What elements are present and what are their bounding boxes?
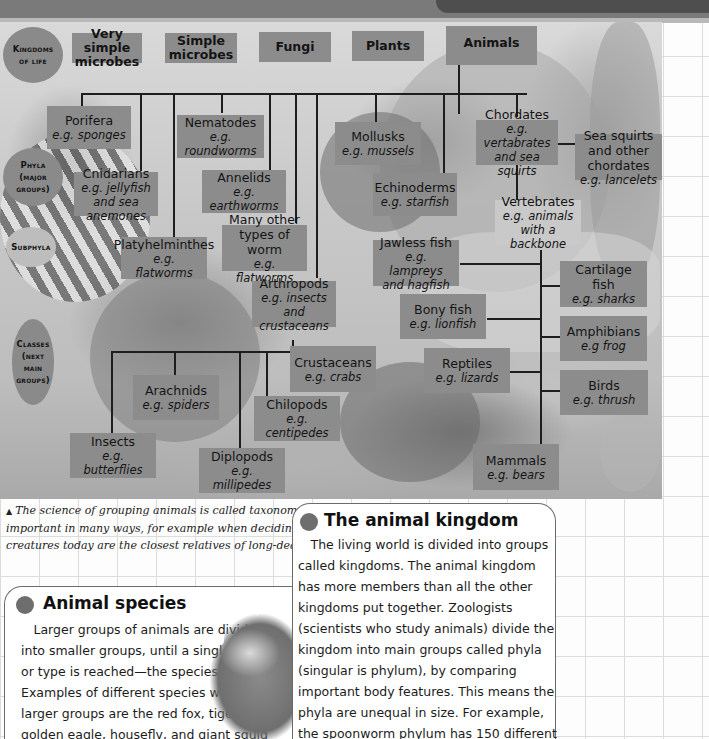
connector	[487, 318, 541, 320]
node-example: e.g. roundworms	[181, 130, 260, 158]
node-name: Chilopods	[266, 397, 327, 412]
header-tab	[436, 0, 709, 13]
node-name: Sea squirts and other chordates	[577, 128, 661, 173]
connector	[460, 263, 541, 265]
node-name: Nematodes	[185, 115, 257, 130]
node-name: Cnidarians	[83, 166, 149, 181]
panel-body: The living world is divided into groups …	[298, 534, 558, 739]
level-label-text: Subphyla	[11, 241, 50, 253]
node-chilopods[interactable]: Chilopodse.g. centipedes	[254, 396, 340, 441]
node-birds[interactable]: Birdse.g. thrush	[560, 370, 648, 415]
node-example: e.g. sharks	[572, 292, 635, 306]
node-bony-fish[interactable]: Bony fishe.g. lionfish	[400, 294, 486, 339]
level-label-phyla: Phyla (major groups)	[3, 148, 63, 206]
kingdom-animals[interactable]: Animals	[446, 26, 537, 65]
node-jawless-fish[interactable]: Jawless fishe.g. lampreys and hagfish	[373, 240, 459, 286]
node-example: e.g. centipedes	[258, 412, 336, 440]
node-crustaceans[interactable]: Crustaceanse.g. crabs	[290, 346, 376, 392]
connector	[81, 93, 527, 95]
stork-illustration	[600, 412, 660, 492]
node-reptiles[interactable]: Reptilese.g. lizards	[424, 348, 510, 393]
level-label-subphyla: Subphyla	[6, 227, 56, 267]
node-example: e.g. earthworms	[206, 185, 282, 213]
bullet-dot-icon	[300, 513, 318, 531]
level-label-text: Phyla (major groups)	[10, 159, 56, 195]
node-example: e.g. jellyfish and sea anemones	[76, 181, 156, 223]
node-name: Mammals	[486, 453, 546, 468]
node-name: Fungi	[276, 40, 315, 54]
node-other-worms[interactable]: Many other types of worme.g. flatworms	[222, 225, 307, 271]
node-sea-squirts[interactable]: Sea squirts and other chordatese.g. lanc…	[575, 134, 662, 180]
node-name: Plants	[366, 39, 410, 53]
connector	[316, 93, 318, 278]
node-name: Annelids	[217, 170, 270, 185]
node-insects[interactable]: Insectse.g. butterflies	[70, 433, 156, 478]
connector	[540, 285, 560, 287]
node-mammals[interactable]: Mammalse.g. bears	[473, 444, 559, 490]
node-name: Simple microbes	[169, 34, 233, 62]
node-example: e.g. lancelets	[580, 173, 657, 187]
node-cnidarians[interactable]: Cnidarianse.g. jellyfish and sea anemone…	[74, 172, 158, 216]
node-arachnids[interactable]: Arachnidse.g. spiders	[133, 375, 219, 420]
node-example: e.g. starfish	[381, 195, 449, 209]
node-name: Vertebrates	[502, 194, 575, 209]
bullet-dot-icon	[16, 596, 34, 614]
node-example: e.g. lionfish	[410, 317, 477, 331]
node-mollusks[interactable]: Molluskse.g. mussels	[335, 122, 421, 165]
kingdom-plants[interactable]: Plants	[352, 31, 424, 61]
node-annelids[interactable]: Annelidse.g. earthworms	[202, 170, 286, 213]
kingdom-fungi[interactable]: Fungi	[259, 32, 331, 62]
connector	[540, 250, 542, 450]
node-name: Echinoderms	[375, 180, 456, 195]
node-platyhelminthes[interactable]: Platyhelminthese.g. flatworms	[121, 237, 207, 279]
kingdom-very-simple-microbes[interactable]: Very simple microbes	[72, 33, 142, 63]
connector	[269, 93, 271, 172]
node-example: e.g. mussels	[342, 144, 414, 158]
connector	[458, 65, 460, 114]
node-name: Arthropods	[259, 276, 328, 291]
node-example: e.g. flatworms	[125, 252, 203, 280]
node-name: Many other types of worm	[229, 212, 301, 257]
node-example: e.g. insects and crustaceans	[256, 291, 332, 333]
node-name: Porifera	[65, 113, 113, 128]
node-example: e.g. spiders	[143, 398, 210, 412]
node-diplopods[interactable]: Diplopodse.g. millipedes	[199, 448, 285, 493]
node-name: Birds	[588, 378, 619, 393]
node-example: e.g. sponges	[52, 128, 125, 142]
connector	[295, 93, 297, 223]
connector	[540, 390, 560, 392]
node-name: Cartilage fish	[564, 262, 643, 292]
node-name: Jawless fish	[380, 235, 452, 250]
node-example: e.g frog	[581, 339, 626, 353]
node-name: Very simple microbes	[75, 27, 139, 69]
node-example: e.g. vertabrates and sea squirts	[477, 122, 557, 178]
node-nematodes[interactable]: Nematodese.g. roundworms	[177, 115, 264, 158]
node-name: Bony fish	[414, 302, 472, 317]
node-example: e.g. butterflies	[74, 449, 152, 477]
node-name: Platyhelminthes	[114, 237, 215, 252]
kingdom-simple-microbes[interactable]: Simple microbes	[165, 33, 237, 63]
connector	[221, 93, 223, 113]
node-name: Animals	[463, 36, 519, 50]
panel-heading: Animal species	[43, 593, 186, 613]
node-example: e.g. animals with a backbone	[496, 209, 580, 251]
node-amphibians[interactable]: Amphibianse.g frog	[560, 316, 647, 361]
node-arthropods[interactable]: Arthropodse.g. insects and crustaceans	[252, 281, 336, 327]
node-name: Mollusks	[351, 129, 405, 144]
connector	[239, 351, 241, 451]
level-label-text: Classes (next main groups)	[14, 338, 52, 386]
node-porifera[interactable]: Poriferae.g. sponges	[47, 106, 131, 149]
triangle-up-icon: ▲	[6, 507, 12, 516]
node-echinoderms[interactable]: Echinodermse.g. starfish	[373, 173, 457, 216]
connector	[540, 336, 560, 338]
node-chordates[interactable]: Chordatese.g. vertabrates and sea squirt…	[476, 120, 558, 165]
node-cartilage-fish[interactable]: Cartilage fishe.g. sharks	[560, 261, 647, 307]
node-example: e.g. lizards	[436, 371, 499, 385]
node-example: e.g. thrush	[573, 393, 635, 407]
node-vertebrates[interactable]: Vertebratese.g. animals with a backbone	[495, 200, 581, 245]
connector	[375, 93, 377, 123]
connector	[510, 371, 541, 373]
animal-kingdom-panel: The animal kingdom The living world is d…	[292, 503, 556, 739]
connector	[557, 143, 575, 145]
node-name: Diplopods	[211, 449, 273, 464]
